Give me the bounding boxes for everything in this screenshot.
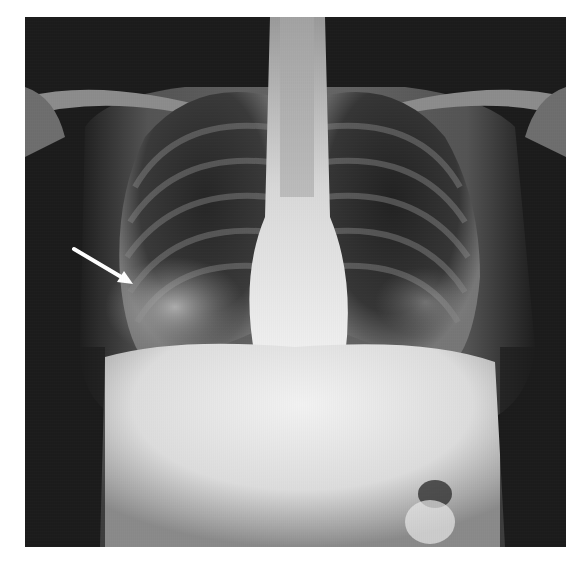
chest-xray-image [25,17,566,547]
right-lower-zone-opacity [105,257,245,357]
radiograph-svg [25,17,566,547]
spine [280,17,314,197]
